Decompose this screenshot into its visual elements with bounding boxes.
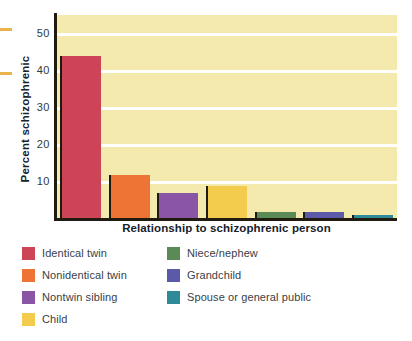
- legend-item[interactable]: Nontwin sibling: [22, 290, 167, 304]
- legend-item[interactable]: Nonidentical twin: [22, 268, 167, 282]
- gridline-50: [56, 33, 397, 36]
- page-edge-mark-bottom: [0, 72, 12, 75]
- bar-nonidentical-twin: [109, 175, 150, 220]
- legend-item[interactable]: Child: [22, 312, 167, 326]
- page-edge-mark-top: [0, 28, 12, 31]
- legend-item[interactable]: Spouse or general public: [167, 290, 387, 304]
- x-axis-line: [54, 218, 397, 221]
- gridline-20: [56, 144, 397, 147]
- legend-item-label: Spouse or general public: [187, 291, 311, 303]
- bar-nontwin-sibling: [157, 193, 198, 219]
- legend-swatch-icon: [167, 291, 180, 304]
- legend-swatch-icon: [22, 291, 35, 304]
- legend-item[interactable]: Grandchild: [167, 268, 387, 282]
- legend-swatch-icon: [22, 313, 35, 326]
- y-axis-title: Percent schizophrenic: [19, 32, 31, 207]
- legend-item[interactable]: Identical twin: [22, 246, 167, 260]
- legend-item-label: Grandchild: [187, 269, 241, 281]
- gridline-40: [56, 70, 397, 73]
- legend-item-label: Niece/nephew: [187, 247, 258, 259]
- legend-item[interactable]: Niece/nephew: [167, 246, 387, 260]
- y-axis-line: [54, 13, 57, 221]
- legend-column-right: Niece/nephewGrandchildSpouse or general …: [167, 246, 387, 326]
- legend-column-left: Identical twinNonidentical twinNontwin s…: [22, 246, 167, 326]
- legend-item-label: Nonidentical twin: [42, 269, 127, 281]
- bar-child: [206, 186, 247, 219]
- plot-area: [56, 15, 397, 219]
- x-axis-title: Relationship to schizophrenic person: [56, 222, 397, 234]
- legend: Identical twinNonidentical twinNontwin s…: [22, 246, 402, 326]
- legend-swatch-icon: [22, 269, 35, 282]
- figure: Percent schizophrenic 5040302010 Relatio…: [0, 0, 412, 341]
- legend-swatch-icon: [167, 269, 180, 282]
- legend-swatch-icon: [22, 247, 35, 260]
- legend-swatch-icon: [167, 247, 180, 260]
- legend-item-label: Child: [42, 313, 68, 325]
- legend-item-label: Identical twin: [42, 247, 107, 259]
- bar-identical-twin: [60, 56, 101, 219]
- gridline-30: [56, 107, 397, 110]
- legend-item-label: Nontwin sibling: [42, 291, 117, 303]
- gridline-10: [56, 181, 397, 184]
